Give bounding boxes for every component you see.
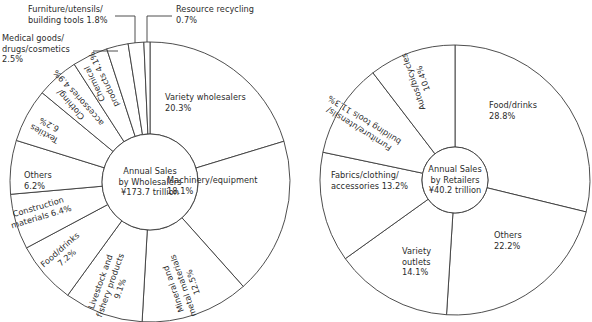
- slice-label: Furniture/utensils/building tools 1.8%: [28, 4, 108, 25]
- slice-label: Others22.2%: [494, 230, 522, 251]
- slice-label: Varietyoutlets14.1%: [402, 246, 431, 277]
- two-pie-chart-figure: Variety wholesalers 20.3%Machinery/equip…: [0, 0, 592, 322]
- pie-center-label: Annual Salesby Retailers¥40.2 trillion: [428, 164, 481, 195]
- chart-canvas: Variety wholesalers 20.3%Machinery/equip…: [0, 0, 592, 322]
- callout-leader-line: [147, 16, 172, 42]
- callout-leader-line: [115, 16, 135, 43]
- pie-wholesalers: Variety wholesalers 20.3%Machinery/equip…: [2, 4, 290, 322]
- pie-retailers: Food/drinks 28.8%Others 22.2%Variety out…: [320, 45, 590, 315]
- slice-label: Fabrics/clothing/accessories 13.2%: [331, 170, 408, 191]
- slice-label: Medical goods/drugs/cosmetics2.5%: [2, 33, 70, 64]
- slice-label: Resource recycling0.7%: [176, 4, 254, 25]
